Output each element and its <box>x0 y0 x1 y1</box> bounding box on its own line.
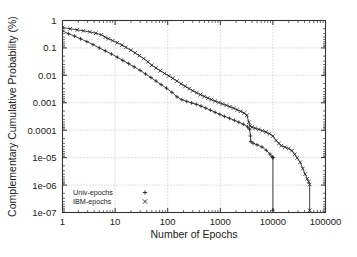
xtick-label: 1 <box>60 216 65 227</box>
ccdf-log-log-chart: 11010010001000010000010.10.010.0010.0001… <box>0 0 357 257</box>
xtick-label: 10000 <box>260 216 286 227</box>
ytick-label: 1 <box>51 15 56 26</box>
yaxis-title: Complementary Cumulative Probability (%) <box>6 16 18 217</box>
ytick-label: 0.0001 <box>27 125 56 136</box>
legend-label-0: Univ-epochs <box>73 188 113 197</box>
xtick-label: 10 <box>110 216 121 227</box>
ytick-label: 1e-05 <box>32 152 56 163</box>
ytick-label: 1e-07 <box>32 207 56 218</box>
ytick-label: 0.1 <box>43 42 56 53</box>
xtick-label: 100000 <box>310 216 342 227</box>
ytick-label: 0.001 <box>33 97 57 108</box>
ytick-label: 0.01 <box>38 70 57 81</box>
legend-label-1: IBM-epochs <box>73 197 112 206</box>
xtick-label: 100 <box>160 216 176 227</box>
ytick-label: 1e-06 <box>32 180 56 191</box>
xtick-label: 1000 <box>210 216 231 227</box>
figure-container: 11010010001000010000010.10.010.0010.0001… <box>0 0 357 257</box>
xaxis-title: Number of Epochs <box>151 228 238 240</box>
